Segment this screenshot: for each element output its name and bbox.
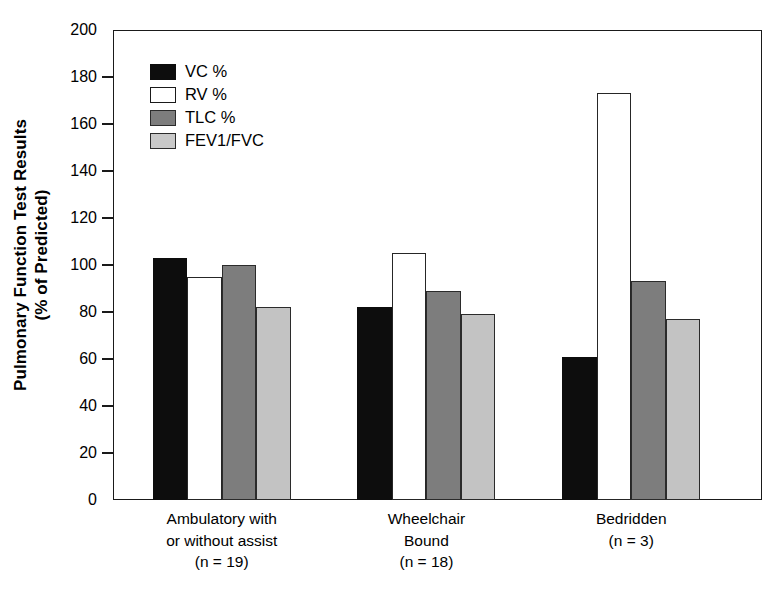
y-axis-tick-mark [102, 170, 113, 172]
x-axis-category-line: or without assist [112, 530, 332, 552]
y-axis-tick-label: 80 [79, 302, 97, 322]
bar-fev-group-2 [461, 314, 496, 500]
y-axis-tick-mark [102, 123, 113, 125]
bar-vc-group-2 [357, 307, 392, 500]
legend-label: FEV1/FVC [185, 131, 264, 150]
y-axis-tick-mark [102, 358, 113, 360]
bar-rv-group-3 [597, 93, 632, 500]
legend-swatch-fev-icon [150, 133, 176, 149]
bar-tlc-group-2 [426, 291, 461, 500]
y-axis-tick-label: 20 [79, 443, 97, 463]
x-axis-category-line: (n = 19) [112, 551, 332, 573]
y-axis-tick-label: 140 [70, 161, 97, 181]
legend-item-rv: RV % [150, 83, 330, 106]
pulmonary-function-bar-chart: Pulmonary Function Test Results (% of Pr… [0, 0, 784, 589]
y-axis-title-line2: (% of Predicted) [31, 119, 52, 391]
y-axis-tick-label: 60 [79, 349, 97, 369]
bar-vc-group-3 [562, 357, 597, 500]
y-axis-tick-mark [102, 405, 113, 407]
legend-label: VC % [185, 62, 227, 81]
y-axis-tick-label: 40 [79, 396, 97, 416]
legend-label: RV % [185, 85, 227, 104]
y-axis-tick-label: 120 [70, 208, 97, 228]
legend-swatch-vc-icon [150, 64, 176, 80]
y-axis-tick-mark [102, 217, 113, 219]
bar-rv-group-1 [187, 277, 222, 500]
legend-swatch-rv-icon [150, 87, 176, 103]
x-axis-category-line: (n = 18) [316, 551, 536, 573]
y-axis-tick-mark [102, 264, 113, 266]
bar-fev-group-1 [256, 307, 291, 500]
x-axis-category-labels: Ambulatory withor without assist(n = 19)… [113, 508, 762, 588]
legend-item-tlc: TLC % [150, 106, 330, 129]
y-axis-tick-label: 100 [70, 255, 97, 275]
y-axis-tick-mark [102, 311, 113, 313]
bar-fev-group-3 [666, 319, 701, 500]
y-axis-title-line1: Pulmonary Function Test Results [10, 119, 31, 391]
legend-swatch-tlc-icon [150, 110, 176, 126]
bar-tlc-group-1 [222, 265, 257, 500]
x-axis-category-line: (n = 3) [521, 530, 741, 552]
legend-label: TLC % [185, 108, 235, 127]
chart-legend: VC %RV %TLC %FEV1/FVC [150, 60, 330, 152]
y-axis-title: Pulmonary Function Test Results (% of Pr… [0, 0, 62, 510]
y-axis-tick-label: 0 [88, 490, 97, 510]
y-axis-tick-label: 160 [70, 114, 97, 134]
legend-item-fev: FEV1/FVC [150, 129, 330, 152]
x-axis-category-line: Wheelchair [316, 508, 536, 530]
x-axis-category-3: Bedridden(n = 3) [521, 508, 741, 551]
x-axis-category-line: Bedridden [521, 508, 741, 530]
y-axis-tick-label: 180 [70, 67, 97, 87]
y-axis-tick-label: 200 [70, 20, 97, 40]
bar-tlc-group-3 [631, 281, 666, 500]
x-axis-category-2: WheelchairBound(n = 18) [316, 508, 536, 573]
x-axis-category-line: Bound [316, 530, 536, 552]
x-axis-category-line: Ambulatory with [112, 508, 332, 530]
legend-item-vc: VC % [150, 60, 330, 83]
bar-rv-group-2 [392, 253, 427, 500]
x-axis-category-1: Ambulatory withor without assist(n = 19) [112, 508, 332, 573]
y-axis-tick-mark [102, 452, 113, 454]
bar-vc-group-1 [153, 258, 188, 500]
y-axis-tick-mark [102, 76, 113, 78]
